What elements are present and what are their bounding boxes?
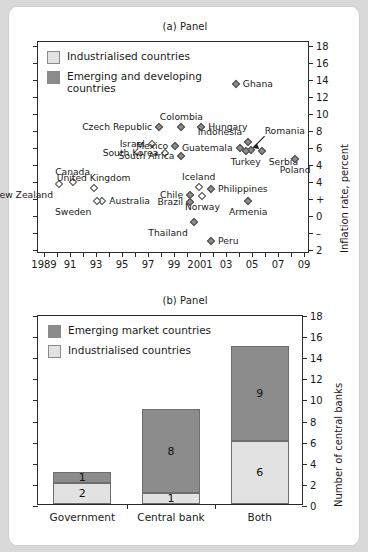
panel-a-y-tick-label: + xyxy=(316,194,324,205)
scatter-point-label: Philippines xyxy=(218,184,268,194)
legend-item-emerging: Emerging and developing countries xyxy=(47,70,202,94)
panel-b-y-tick xyxy=(302,316,307,317)
bar-segment: 2 xyxy=(53,483,111,504)
panel-b-y-tick-label: 12 xyxy=(310,374,323,385)
panel-b-y-tick-label: 6 xyxy=(310,437,316,448)
panel-b-y-tick-label: 4 xyxy=(310,458,316,469)
panel-a-y-tick xyxy=(308,199,313,200)
scatter-point-label: Iceland xyxy=(182,172,215,182)
panel-a-y-tick-left xyxy=(33,216,38,217)
panel-a-x-tick-label: 97 xyxy=(142,259,155,270)
panel-a-y-tick xyxy=(308,182,313,183)
panel-b-x-tick xyxy=(215,504,216,509)
panel-a-y-tick-left xyxy=(33,80,38,81)
panel-a-x-tick-label: 03 xyxy=(220,259,233,270)
bar-segment: 1 xyxy=(53,472,111,483)
panel-a-y-tick xyxy=(308,114,313,115)
scatter-point xyxy=(177,123,185,131)
panel-b-plot-area: Emerging market countries Industrialised… xyxy=(37,315,303,505)
panel-b-y-tick-left xyxy=(33,464,38,465)
panel-a-y-tick-left xyxy=(33,182,38,183)
panel-b-y-tick-label: 16 xyxy=(310,332,323,343)
panel-b: (b) Panel Emerging market countries Indu… xyxy=(9,295,361,545)
panel-a-x-tick-label: 07 xyxy=(272,259,285,270)
bar-segment: 6 xyxy=(231,441,289,504)
panel-a-x-tick xyxy=(265,252,266,257)
scatter-point-label: Indonesia xyxy=(198,127,242,137)
panel-a-x-tick-label: 09 xyxy=(298,259,311,270)
panel-a-y-tick-left xyxy=(33,165,38,166)
panel-a-y-tick-left xyxy=(33,233,38,234)
scatter-point-label: Peru xyxy=(218,236,238,246)
panel-a-y-tick-left xyxy=(33,250,38,251)
panel-a-y-tick-label: 0 xyxy=(316,211,322,222)
panel-a-x-tick-label: 99 xyxy=(168,259,181,270)
panel-a-x-tick xyxy=(57,252,58,257)
panel-a-y-tick xyxy=(308,63,313,64)
scatter-point xyxy=(155,123,163,131)
panel-a-y-tick-label: 4 xyxy=(316,160,322,171)
scatter-point-label: South Africa xyxy=(119,151,175,161)
panel-a-x-tick xyxy=(291,252,292,257)
panel-a-y-tick xyxy=(308,131,313,132)
scatter-point xyxy=(89,184,97,192)
panel-a-x-tick xyxy=(70,252,71,257)
panel-b-y-tick-left xyxy=(33,400,38,401)
panel-a-y-tick-label: 4 xyxy=(316,177,322,188)
panel-a-y-tick-label: 18 xyxy=(316,41,329,52)
bar-central-bank: 18 xyxy=(142,314,200,504)
bar-segment: 8 xyxy=(142,409,200,493)
panel-a-x-tick xyxy=(122,252,123,257)
bar-segment: 9 xyxy=(231,346,289,441)
scatter-point xyxy=(207,185,215,193)
panel-a-y-tick-label: 16 xyxy=(316,58,329,69)
panel-a-x-tick xyxy=(239,252,240,257)
panel-b-y-tick-left xyxy=(33,422,38,423)
panel-a-y-tick-left xyxy=(33,148,38,149)
panel-b-y-tick-label: 8 xyxy=(310,416,316,427)
bar-government: 21 xyxy=(53,314,111,504)
panel-b-title: (b) Panel xyxy=(9,295,361,306)
panel-a-x-tick xyxy=(148,252,149,257)
panel-b-category-label: Central bank xyxy=(137,511,204,523)
scatter-point-label: Armenia xyxy=(229,207,268,217)
panel-a-x-tick xyxy=(83,252,84,257)
panel-b-category-label: Government xyxy=(50,511,115,523)
scatter-point xyxy=(198,191,206,199)
panel-b-y-tick-left xyxy=(33,443,38,444)
panel-b-y-tick-label: 2 xyxy=(310,479,316,490)
panel-a: (a) Panel Industrialised countries Emerg… xyxy=(9,21,361,283)
panel-a-y-tick xyxy=(308,46,313,47)
scatter-point xyxy=(207,237,215,245)
panel-a-y-tick-left xyxy=(33,63,38,64)
scatter-point-label: Czech Republic xyxy=(82,122,152,132)
panel-a-x-tick-label: 05 xyxy=(246,259,259,270)
panel-a-y-tick-label: 12 xyxy=(316,92,329,103)
panel-b-y-tick xyxy=(302,422,307,423)
panel-a-y-tick xyxy=(308,80,313,81)
scatter-point xyxy=(171,142,179,150)
panel-a-y-tick-left xyxy=(33,131,38,132)
panel-a-y-tick-label: 14 xyxy=(316,75,329,86)
panel-a-y-tick-left xyxy=(33,114,38,115)
legend-swatch-emerging xyxy=(47,71,60,84)
panel-a-y-tick-label: 6 xyxy=(316,143,322,154)
panel-a-title: (a) Panel xyxy=(9,21,361,32)
panel-a-y-axis-title: Inflation rate, percent xyxy=(339,144,350,253)
scatter-point-label: Turkey xyxy=(231,157,261,167)
bar-both: 69 xyxy=(231,314,289,504)
scatter-point-label: New Zealand xyxy=(0,190,53,200)
panel-a-y-tick xyxy=(308,216,313,217)
panel-a-x-tick xyxy=(161,252,162,257)
panel-a-x-tick xyxy=(187,252,188,257)
panel-a-x-tick-label: 93 xyxy=(90,259,103,270)
panel-b-y-tick xyxy=(302,400,307,401)
panel-a-y-tick-left xyxy=(33,97,38,98)
panel-b-y-tick-left xyxy=(33,316,38,317)
panel-b-y-tick-label: 0 xyxy=(310,501,316,512)
panel-b-y-tick xyxy=(302,379,307,380)
panel-a-y-tick xyxy=(308,97,313,98)
scatter-point-label: Poland xyxy=(280,165,311,175)
scatter-point-label: Guatemala xyxy=(182,143,233,153)
panel-b-y-tick-left xyxy=(33,358,38,359)
